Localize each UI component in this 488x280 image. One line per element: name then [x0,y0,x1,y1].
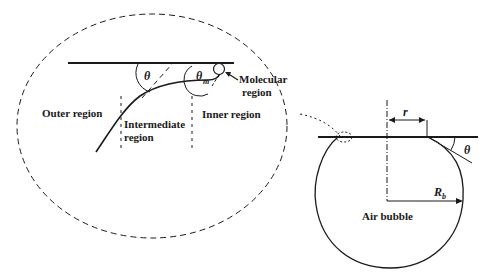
intermediate-region-label-line2: region [124,131,154,143]
inset-connector-line [300,114,340,136]
bubble-radius-arrow [456,198,463,204]
inset-magnified-view: Outer region Intermediate region Inner r… [17,14,287,238]
outer-region-label: Outer region [42,107,102,119]
contact-radius-arrow-left [389,117,395,123]
contact-radius-arrow-right [419,117,425,123]
molecular-region-circle [214,64,225,75]
air-bubble-view: r θ R b Air bubble [315,100,478,268]
inset-theta-m-symbol: θ [196,69,203,83]
molecular-region-label-line1: Molecular [239,73,287,85]
inset-theta-m-subscript: m [203,77,209,86]
bubble-outline [315,137,463,268]
contact-angle-diagram: Outer region Intermediate region Inner r… [0,0,488,280]
bubble-radius-subscript: b [442,192,446,201]
inset-theta-symbol: θ [144,69,151,83]
inner-region-label: Inner region [202,108,261,120]
bubble-theta-arc [451,137,455,150]
bubble-theta-symbol: θ [464,143,471,157]
air-bubble-label: Air bubble [362,210,413,222]
bubble-radius-symbol: R [433,185,442,199]
contact-radius-label: r [403,105,408,119]
molecular-region-label-line2: region [242,86,272,98]
intermediate-region-label-line1: Intermediate [124,118,185,130]
diagram-canvas: Outer region Intermediate region Inner r… [0,0,488,280]
